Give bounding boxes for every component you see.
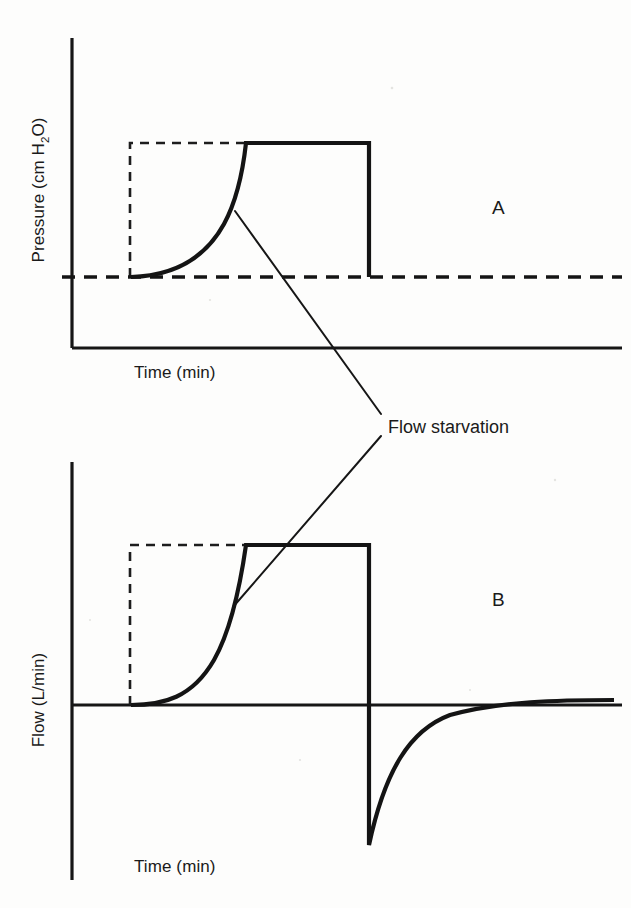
figure-root: A Time (min) Pressure (cm H2O) B Time (m… [0, 0, 631, 908]
panel-b-letter: B [492, 589, 505, 610]
panel-b-y-axis-label: Flow (L/min) [29, 653, 48, 748]
leader-line-to-flow-curve [233, 436, 381, 607]
panel-a-y-axis-label: Pressure (cm H2O) [29, 117, 51, 262]
panel-a-y-axis-label-group: Pressure (cm H2O) [29, 117, 51, 262]
flow-starvation-label: Flow starvation [388, 417, 509, 437]
panel-b-x-axis-label: Time (min) [134, 857, 216, 876]
panel-a-y-axis-label-main: Pressure (cm H [29, 143, 48, 262]
panel-a-flow-starved-trace [131, 143, 369, 277]
waveform-figure-svg: A Time (min) Pressure (cm H2O) B Time (m… [0, 0, 631, 908]
panel-b-group: B Time (min) Flow (L/min) [29, 462, 622, 880]
panel-a-x-axis-label: Time (min) [134, 363, 216, 382]
leader-line-to-pressure-curve [235, 211, 381, 414]
panel-a-letter: A [492, 197, 505, 218]
panel-b-flow-starved-trace [131, 545, 614, 845]
panel-a-group: A Time (min) Pressure (cm H2O) [29, 38, 622, 382]
panel-a-y-axis-label-tail: O) [29, 117, 48, 136]
panel-b-y-axis-label-group: Flow (L/min) [29, 653, 48, 748]
